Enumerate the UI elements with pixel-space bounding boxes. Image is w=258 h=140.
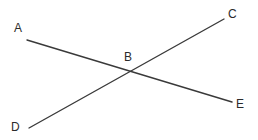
point-label-e: E	[236, 97, 244, 111]
point-label-c: C	[228, 7, 237, 21]
point-label-b: B	[124, 50, 132, 64]
geometry-diagram: A B C D E	[0, 0, 258, 140]
line-segment-dc	[29, 19, 224, 128]
point-label-a: A	[14, 21, 22, 35]
point-label-d: D	[11, 120, 20, 134]
